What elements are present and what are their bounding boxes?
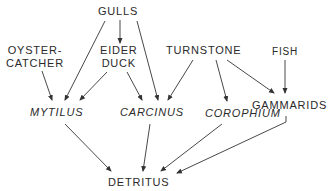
edge-turnstone-gammarids [227, 60, 274, 93]
edge-corophium-detritus [161, 124, 222, 171]
edge-eider-mytilus [80, 72, 107, 100]
food-web-edges [0, 0, 329, 191]
node-gulls: GULLS [98, 5, 138, 18]
edge-turnstone-corophium [216, 60, 227, 101]
node-turnstone: TURNSTONE [166, 44, 241, 57]
node-fish: FISH [272, 45, 298, 58]
edge-gulls-carcinus [137, 21, 158, 100]
node-eider-line2: DUCK [100, 57, 138, 70]
node-mytilus: MYTILUS [30, 106, 83, 119]
edge-mytilus-detritus [65, 124, 111, 171]
node-oystercatcher-line2: CATCHER [6, 57, 64, 70]
edge-eider-carcinus [127, 72, 142, 100]
node-oystercatcher-line1: OYSTER- [6, 44, 64, 57]
node-gammarids: GAMMARIDS [252, 99, 327, 112]
node-eider-duck: EIDER DUCK [100, 44, 138, 70]
edge-gulls-mytilus [65, 21, 105, 100]
node-carcinus: CARCINUS [120, 106, 184, 119]
edge-gammarids-detritus [177, 116, 286, 173]
node-detritus: DETRITUS [108, 176, 169, 189]
edge-oystercatcher-mytilus [42, 71, 52, 100]
node-oystercatcher: OYSTER- CATCHER [6, 44, 64, 70]
edge-turnstone-carcinus [168, 60, 193, 100]
node-eider-line1: EIDER [100, 44, 138, 57]
edge-carcinus-detritus [143, 124, 150, 171]
